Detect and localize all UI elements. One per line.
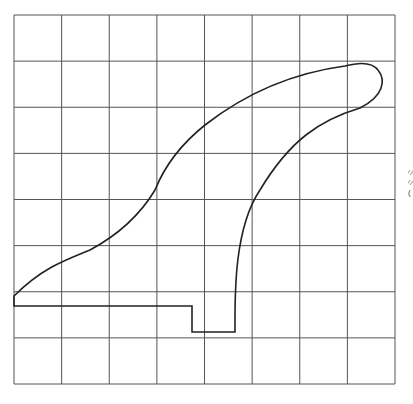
cropped-edge-text: ⁄ ⁄ ⁄ ⁄ ( <box>408 168 413 198</box>
grid-diagram <box>0 0 413 404</box>
grid-lines <box>14 15 395 384</box>
